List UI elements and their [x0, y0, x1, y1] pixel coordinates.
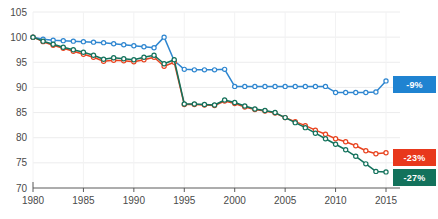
data-point-marker[interactable] — [384, 79, 388, 83]
data-point-marker[interactable] — [333, 142, 337, 146]
data-point-marker[interactable] — [303, 84, 307, 88]
x-axis-tick-label: 1980 — [22, 195, 45, 206]
data-point-marker[interactable] — [344, 90, 348, 94]
data-point-marker[interactable] — [293, 121, 297, 125]
y-axis-tick-label: 85 — [16, 107, 28, 118]
data-point-marker[interactable] — [354, 154, 358, 158]
data-point-marker[interactable] — [132, 58, 136, 62]
data-point-marker[interactable] — [273, 110, 277, 114]
data-point-marker[interactable] — [112, 56, 116, 60]
data-point-marker[interactable] — [102, 57, 106, 61]
data-point-marker[interactable] — [323, 132, 327, 136]
chart-plot-area: 1051009590858075701980198519901995200020… — [0, 0, 438, 219]
data-point-marker[interactable] — [91, 40, 95, 44]
line-chart: 1051009590858075701980198519901995200020… — [0, 0, 438, 219]
data-point-marker[interactable] — [152, 53, 156, 57]
data-point-marker[interactable] — [243, 104, 247, 108]
data-point-marker[interactable] — [202, 102, 206, 106]
data-point-marker[interactable] — [31, 35, 35, 39]
data-point-marker[interactable] — [293, 84, 297, 88]
data-point-marker[interactable] — [364, 149, 368, 153]
data-point-marker[interactable] — [364, 90, 368, 94]
data-point-marker[interactable] — [162, 62, 166, 66]
data-point-marker[interactable] — [374, 152, 378, 156]
x-axis-tick-label: 2005 — [274, 195, 297, 206]
data-point-marker[interactable] — [303, 126, 307, 130]
data-point-marker[interactable] — [182, 67, 186, 71]
data-point-marker[interactable] — [333, 137, 337, 141]
data-point-marker[interactable] — [202, 68, 206, 72]
data-point-marker[interactable] — [51, 42, 55, 46]
y-axis-tick-label: 105 — [10, 7, 27, 18]
data-point-marker[interactable] — [283, 84, 287, 88]
x-axis-tick-label: 1990 — [123, 195, 146, 206]
x-axis-tick-label: 2000 — [224, 195, 247, 206]
data-point-marker[interactable] — [192, 102, 196, 106]
data-point-marker[interactable] — [223, 98, 227, 102]
data-point-marker[interactable] — [192, 68, 196, 72]
end-label-badge-blue: -9% — [393, 76, 436, 93]
data-point-marker[interactable] — [212, 68, 216, 72]
badge-blue-text: -9% — [406, 80, 423, 90]
data-point-marker[interactable] — [182, 102, 186, 106]
data-point-marker[interactable] — [243, 84, 247, 88]
y-axis-tick-label: 80 — [16, 132, 28, 143]
data-point-marker[interactable] — [81, 40, 85, 44]
data-point-marker[interactable] — [374, 169, 378, 173]
data-point-marker[interactable] — [333, 90, 337, 94]
data-point-marker[interactable] — [132, 44, 136, 48]
data-point-marker[interactable] — [273, 84, 277, 88]
data-point-marker[interactable] — [354, 90, 358, 94]
y-axis-tick-label: 95 — [16, 57, 28, 68]
data-point-marker[interactable] — [122, 57, 126, 61]
data-point-marker[interactable] — [364, 162, 368, 166]
data-point-marker[interactable] — [152, 46, 156, 50]
y-axis-tick-label: 90 — [16, 82, 28, 93]
data-point-marker[interactable] — [354, 144, 358, 148]
data-point-marker[interactable] — [122, 43, 126, 47]
data-point-marker[interactable] — [233, 84, 237, 88]
data-point-marker[interactable] — [71, 48, 75, 52]
data-point-marker[interactable] — [142, 55, 146, 59]
data-point-marker[interactable] — [223, 67, 227, 71]
data-point-marker[interactable] — [323, 84, 327, 88]
data-point-marker[interactable] — [212, 103, 216, 107]
data-point-marker[interactable] — [71, 39, 75, 43]
y-axis-tick-label: 75 — [16, 157, 28, 168]
data-point-marker[interactable] — [91, 53, 95, 57]
data-point-marker[interactable] — [81, 50, 85, 54]
data-point-marker[interactable] — [263, 108, 267, 112]
badge-red-text: -23% — [404, 153, 426, 163]
data-point-marker[interactable] — [323, 137, 327, 141]
data-point-marker[interactable] — [253, 107, 257, 111]
y-axis-tick-label: 70 — [16, 183, 28, 194]
data-point-marker[interactable] — [253, 84, 257, 88]
data-point-marker[interactable] — [162, 35, 166, 39]
data-point-marker[interactable] — [102, 41, 106, 45]
data-point-marker[interactable] — [172, 58, 176, 62]
data-point-marker[interactable] — [233, 100, 237, 104]
end-label-badge-red: -23% — [393, 149, 436, 166]
data-point-marker[interactable] — [384, 151, 388, 155]
end-label-badge-green: -27% — [393, 169, 436, 186]
data-point-marker[interactable] — [313, 131, 317, 135]
x-axis-tick-label: 1985 — [72, 195, 95, 206]
data-point-marker[interactable] — [344, 148, 348, 152]
x-axis-tick-label: 2015 — [375, 195, 398, 206]
data-point-marker[interactable] — [142, 45, 146, 49]
x-axis-tick-label: 1995 — [173, 195, 196, 206]
data-point-marker[interactable] — [263, 84, 267, 88]
data-point-marker[interactable] — [344, 140, 348, 144]
y-axis-tick-label: 100 — [10, 32, 27, 43]
x-axis-tick-label: 2010 — [324, 195, 347, 206]
data-point-marker[interactable] — [313, 84, 317, 88]
series-line-series-blue — [33, 37, 386, 92]
series-line-series-green — [33, 37, 386, 172]
data-point-marker[interactable] — [41, 39, 45, 43]
data-point-marker[interactable] — [112, 42, 116, 46]
data-point-marker[interactable] — [283, 116, 287, 120]
data-point-marker[interactable] — [61, 45, 65, 49]
data-point-marker[interactable] — [61, 39, 65, 43]
data-point-marker[interactable] — [384, 170, 388, 174]
data-point-marker[interactable] — [374, 90, 378, 94]
